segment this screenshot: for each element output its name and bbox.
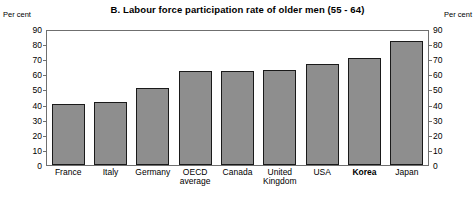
y-tick-label-right: 60 <box>433 71 442 80</box>
category-label-line: Kingdom <box>259 177 301 186</box>
y-tick-label-left: 90 <box>33 26 42 35</box>
bar <box>390 41 423 165</box>
tick-mark <box>429 121 432 122</box>
tick-mark <box>429 75 432 76</box>
y-axis-left: 9080706050403020100 <box>20 30 42 166</box>
y-axis-unit-label-right: Per cent <box>444 10 472 19</box>
tick-mark <box>43 106 46 107</box>
tick-mark <box>429 151 432 152</box>
category-label-line: average <box>174 177 216 186</box>
bar <box>306 64 339 165</box>
tick-mark <box>43 136 46 137</box>
y-axis-right: 9080706050403020100 <box>433 30 455 166</box>
x-axis-category-label: UnitedKingdom <box>259 168 301 185</box>
chart-figure: B. Labour force participation rate of ol… <box>0 0 475 197</box>
tick-mark <box>429 60 432 61</box>
tick-mark <box>43 45 46 46</box>
y-tick-label-left: 80 <box>33 41 42 50</box>
x-axis-category-label: Italy <box>89 168 131 177</box>
y-tick-label-left: 60 <box>33 71 42 80</box>
category-label-line: Korea <box>343 168 385 177</box>
bar <box>94 102 127 165</box>
x-axis-category-label: France <box>47 168 89 177</box>
y-tick-label-left: 30 <box>33 116 42 125</box>
bar-series <box>47 31 428 165</box>
tick-mark <box>43 151 46 152</box>
tick-mark <box>43 75 46 76</box>
x-axis-category-label: Canada <box>216 168 258 177</box>
y-tick-label-right: 40 <box>433 101 442 110</box>
bar <box>52 104 85 165</box>
category-label-line: Italy <box>89 168 131 177</box>
y-tick-label-left: 70 <box>33 56 42 65</box>
x-axis-category-label: USA <box>301 168 343 177</box>
x-axis-category-label: OECDaverage <box>174 168 216 185</box>
y-tick-label-left: 20 <box>33 132 42 141</box>
y-tick-label-left: 50 <box>33 86 42 95</box>
category-label-line: France <box>47 168 89 177</box>
y-tick-label-right: 70 <box>433 56 442 65</box>
y-tick-label-right: 20 <box>433 132 442 141</box>
x-axis-category-label: Japan <box>386 168 428 177</box>
x-axis-category-labels: FranceItalyGermanyOECDaverageCanadaUnite… <box>47 168 428 196</box>
category-label-line: Japan <box>386 168 428 177</box>
x-axis-category-label: Korea <box>343 168 385 177</box>
y-tick-label-right: 50 <box>433 86 442 95</box>
category-label-line: USA <box>301 168 343 177</box>
y-tick-label-right: 30 <box>433 116 442 125</box>
y-axis-unit-label-left: Per cent <box>3 10 31 19</box>
x-axis-category-label: Germany <box>132 168 174 177</box>
tick-mark <box>43 121 46 122</box>
category-label-line: Canada <box>216 168 258 177</box>
y-tick-label-right: 10 <box>433 147 442 156</box>
category-label-line: Germany <box>132 168 174 177</box>
tick-mark <box>43 90 46 91</box>
y-tick-label-right: 80 <box>433 41 442 50</box>
bar <box>179 71 212 165</box>
bar <box>348 58 381 165</box>
y-tick-label-left: 40 <box>33 101 42 110</box>
y-tick-label-left: 10 <box>33 147 42 156</box>
y-tick-label-right: 0 <box>433 162 438 171</box>
y-tick-label-right: 90 <box>433 26 442 35</box>
chart-title: B. Labour force participation rate of ol… <box>0 4 475 15</box>
tick-mark <box>43 60 46 61</box>
tick-mark <box>429 136 432 137</box>
tick-mark <box>429 45 432 46</box>
bar <box>263 70 296 165</box>
y-tick-label-left: 0 <box>37 162 42 171</box>
bar <box>136 88 169 165</box>
bar <box>221 71 254 165</box>
tick-mark <box>429 106 432 107</box>
tick-mark <box>429 90 432 91</box>
